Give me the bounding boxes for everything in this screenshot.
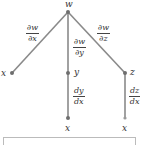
edge-label-dz-dx: dz dx xyxy=(129,87,140,106)
node-z xyxy=(123,71,127,75)
formula-box xyxy=(3,137,136,145)
edge-label-dw-dx: ∂w ∂x xyxy=(26,24,39,43)
tree-edges xyxy=(0,0,141,145)
edge-label-dw-dy: ∂w ∂y xyxy=(73,38,86,57)
node-z-label: z xyxy=(130,68,135,77)
node-z-x-label: x xyxy=(122,124,127,133)
node-z-x xyxy=(123,116,126,119)
edge-w-x xyxy=(12,12,68,73)
node-x xyxy=(10,71,14,75)
node-w xyxy=(66,10,70,14)
root-label: w xyxy=(65,0,73,9)
node-y-x xyxy=(66,116,70,120)
edge-label-dy-dx: dy dx xyxy=(73,87,85,106)
node-y-x-label: x xyxy=(65,124,70,133)
edge-label-dw-dz: ∂w ∂z xyxy=(97,24,110,43)
node-x-label: x xyxy=(1,69,6,78)
node-y-label: y xyxy=(74,68,79,77)
node-y xyxy=(66,71,70,75)
